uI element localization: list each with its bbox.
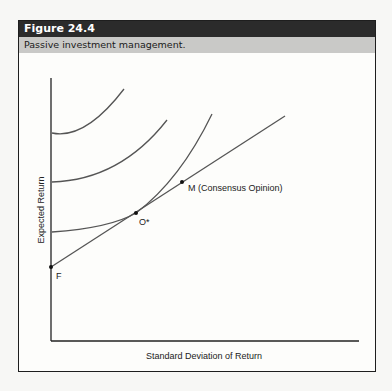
point-F-label: F: [56, 271, 62, 281]
points: FO*M (Consensus Opinion): [49, 180, 283, 281]
indifference-curve-1: [52, 89, 124, 134]
point-O-star-marker: [134, 211, 138, 215]
indifference-curves: [52, 89, 212, 232]
point-M-label: M (Consensus Opinion): [188, 183, 283, 193]
point-O-star-label: O*: [139, 217, 150, 227]
point-F-marker: [49, 265, 53, 269]
indifference-curve-2: [52, 120, 167, 182]
chart: FO*M (Consensus Opinion) Standard Deviat…: [0, 0, 392, 391]
y-axis-label: Expected Return: [36, 176, 46, 243]
point-M-marker: [180, 180, 184, 184]
x-axis-label: Standard Deviation of Return: [146, 351, 262, 361]
